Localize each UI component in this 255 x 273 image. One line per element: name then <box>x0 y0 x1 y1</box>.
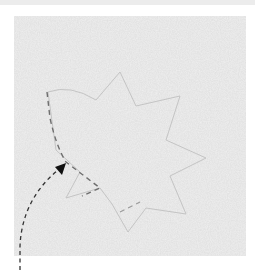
leaf-outline <box>48 72 206 232</box>
trace-continuation <box>120 202 140 212</box>
diagram-overlay <box>0 0 255 273</box>
dashed-curved-arrow <box>20 170 58 270</box>
arrowhead-icon <box>55 163 66 175</box>
